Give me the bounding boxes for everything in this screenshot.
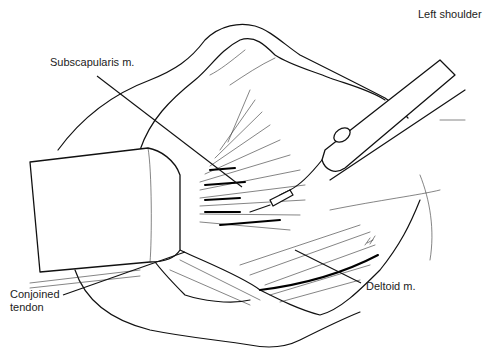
label-subscapularis: Subscapularis m. (50, 56, 134, 69)
label-deltoid: Deltoid m. (366, 280, 416, 293)
subscapularis-fibers (200, 90, 305, 230)
probe-instrument (280, 160, 322, 195)
conjoined-tendon-border (150, 255, 250, 302)
label-conjoined-tendon: Conjoined tendon (10, 288, 60, 314)
anatomy-drawing (0, 0, 501, 355)
skin-edge-right (420, 175, 432, 260)
deltoid-fibers (170, 225, 375, 305)
surgical-illustration: Left shoulder Subscapularis m. Conjoined… (0, 0, 501, 355)
artist-signature (365, 236, 375, 245)
deltoid-lower-border (180, 200, 420, 315)
figure-title: Left shoulder (418, 8, 482, 21)
retractor-left (30, 148, 180, 272)
skin-edge-lower (75, 270, 360, 347)
